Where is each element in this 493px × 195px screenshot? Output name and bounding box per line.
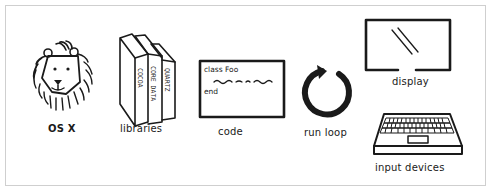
books-icon: COCOA CORE DATA QUARTZ <box>115 30 190 125</box>
code-line-2: end <box>204 87 218 96</box>
lion-icon <box>30 40 100 120</box>
input-devices-label: input devices <box>375 162 445 173</box>
book-core-data: CORE DATA <box>149 66 157 101</box>
libraries-label: libraries <box>120 123 162 134</box>
monitor-icon <box>362 16 454 76</box>
laptop-icon <box>370 112 465 160</box>
code-window-icon: class Foo end <box>198 58 288 118</box>
code-line-1: class Foo <box>204 65 239 74</box>
book-quartz: QUARTZ <box>163 68 171 92</box>
run-loop-label: run loop <box>304 127 347 138</box>
code-label: code <box>218 126 243 137</box>
display-label: display <box>392 76 429 87</box>
book-cocoa: COCOA <box>136 68 144 88</box>
loop-arrow-icon <box>297 63 357 123</box>
osx-label: OS X <box>48 123 76 134</box>
